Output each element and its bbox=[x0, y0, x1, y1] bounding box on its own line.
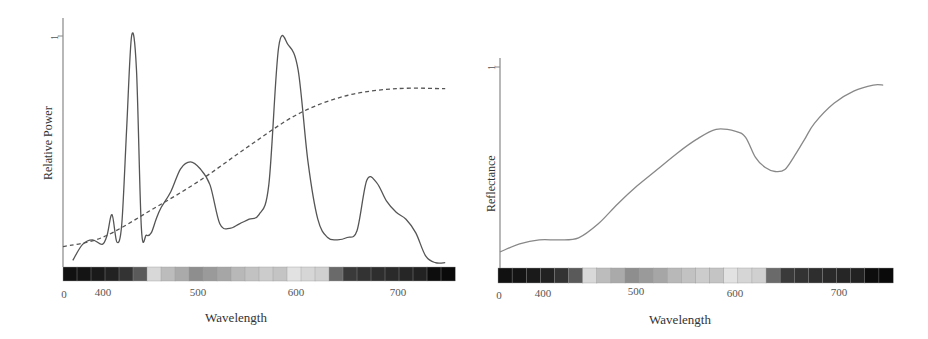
reflectance-plot bbox=[0, 0, 928, 339]
solid-series-line bbox=[500, 85, 883, 252]
x-tick-600: 600 bbox=[727, 287, 744, 299]
reflectance-chart: 1 Reflectance 0 400 500 600 700 Waveleng… bbox=[0, 0, 928, 339]
x-tick-400: 400 bbox=[535, 287, 552, 299]
x-axis-label: Wavelength bbox=[649, 312, 711, 328]
x-tick-500: 500 bbox=[628, 285, 645, 297]
wavelength-color-bar bbox=[498, 268, 893, 283]
y-axis-label: Reflectance bbox=[484, 155, 499, 212]
x-tick-700: 700 bbox=[831, 286, 848, 298]
x-tick-0: 0 bbox=[496, 289, 502, 301]
y-tick-one: 1 bbox=[486, 65, 497, 70]
